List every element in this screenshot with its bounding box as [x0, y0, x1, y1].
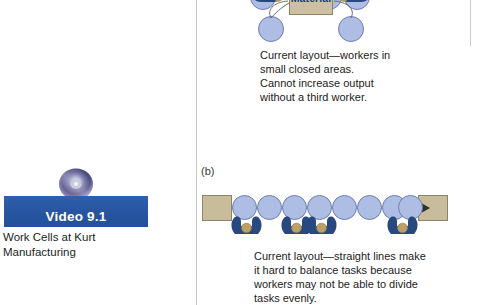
figure-b: (b): [196, 148, 490, 305]
station-circle: [232, 195, 257, 220]
station-circle: [257, 195, 282, 220]
video-banner[interactable]: Video 9.1: [4, 196, 148, 227]
video-caption-line-2: Manufacturing: [3, 245, 177, 260]
station-circle: [338, 16, 364, 42]
station-circle: [258, 16, 284, 42]
station-circle: [282, 195, 307, 220]
material-box-label: Material: [291, 0, 331, 4]
station-circle: [357, 195, 382, 220]
station-circle: [250, 0, 276, 10]
station-circle: [332, 195, 357, 220]
panel-tag-b: (b): [201, 165, 214, 177]
video-callout[interactable]: Video 9.1 Work Cells at Kurt Manufacturi…: [0, 168, 180, 248]
figure-b-caption: Current layout—straight lines make it ha…: [254, 249, 474, 305]
material-box: Material: [289, 0, 333, 15]
figure-page: Video 9.1 Work Cells at Kurt Manufacturi…: [0, 0, 490, 305]
video-caption-line-1: Work Cells at Kurt: [3, 230, 177, 245]
station-circle: [307, 195, 332, 220]
video-caption: Work Cells at Kurt Manufacturing: [3, 230, 177, 260]
figure-a-caption: Current layout—workers in small closed a…: [260, 48, 460, 104]
station-circle: [344, 0, 370, 10]
video-banner-label: Video 9.1: [4, 209, 148, 224]
figure-a: Material Current layout—workers in small…: [196, 0, 490, 148]
station-circle: [398, 195, 423, 220]
input-material-box: [202, 195, 232, 221]
